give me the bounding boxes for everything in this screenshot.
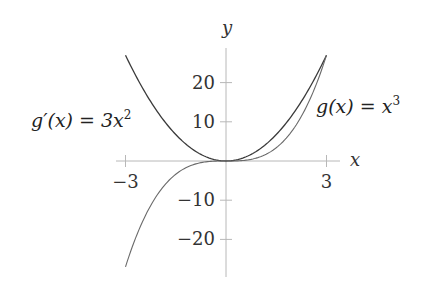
x-tick-label: 3 (321, 171, 332, 192)
y-tick-label: −10 (177, 189, 215, 210)
y-axis-label: y (221, 17, 233, 38)
x-axis-label: x (350, 149, 360, 170)
derivative-label: g′(x) = 3x2 (31, 108, 131, 131)
x-tick-label: −3 (112, 171, 139, 192)
chart: −33 −20−101020 y x g′(x) = 3x2 g(x) = x3 (0, 0, 433, 285)
cubic-label-base: g(x) = x (316, 95, 393, 117)
cubic-label: g(x) = x3 (316, 94, 400, 117)
y-tick-label: −20 (177, 228, 215, 249)
y-tick-label: 20 (192, 72, 215, 93)
y-tick-label: 10 (192, 111, 215, 132)
cubic-label-exponent: 3 (392, 94, 400, 108)
derivative-label-base: g′(x) = 3x (31, 109, 124, 131)
derivative-label-exponent: 2 (124, 108, 132, 122)
